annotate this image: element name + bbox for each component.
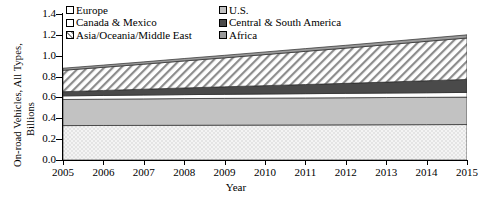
- legend-swatch-icon: [219, 31, 227, 39]
- y-axis-tick-label: 0.8: [30, 71, 56, 82]
- area-band-us: [63, 97, 467, 125]
- y-axis-title: On-road Vehicles, All Types, Billions: [0, 0, 34, 175]
- x-axis-tick: [144, 160, 145, 165]
- x-axis-tick: [184, 160, 185, 165]
- y-axis-title-line1: On-road Vehicles, All Types,: [12, 43, 23, 167]
- legend-label: Europe: [76, 4, 108, 16]
- y-axis-tick-label: 1.0: [30, 50, 56, 61]
- x-axis-tick-label: 2007: [124, 166, 164, 178]
- legend-column-2: U.S.Central & South AmericaAfrica: [219, 4, 341, 41]
- legend-swatch-icon: [66, 6, 74, 14]
- legend-column-1: EuropeCanada & MexicoAsia/Oceania/Middle…: [66, 4, 192, 41]
- legend-label: U.S.: [229, 4, 249, 16]
- y-axis-tick-label: 0.2: [30, 133, 56, 144]
- x-axis-tick: [346, 160, 347, 165]
- x-axis-tick-label: 2010: [245, 166, 285, 178]
- x-axis-title: Year: [0, 181, 472, 193]
- legend-item[interactable]: Europe: [66, 4, 192, 16]
- x-axis-tick: [63, 160, 64, 165]
- x-axis-tick: [386, 160, 387, 165]
- y-axis-tick-label: 1.4: [30, 8, 56, 19]
- y-axis-tick-label: 0.0: [30, 154, 56, 165]
- x-axis-tick-label: 2014: [407, 166, 447, 178]
- x-axis-tick: [305, 160, 306, 165]
- x-axis-tick-label: 2015: [447, 166, 483, 178]
- x-axis-tick: [225, 160, 226, 165]
- y-axis-tick-label: 1.2: [30, 29, 56, 40]
- legend-swatch-icon: [66, 31, 74, 39]
- y-axis-tick-label: 0.4: [30, 112, 56, 123]
- y-axis-tick: [56, 160, 62, 161]
- legend-swatch-icon: [219, 19, 227, 27]
- x-axis-tick-label: 2011: [285, 166, 325, 178]
- legend-label: Africa: [229, 29, 257, 41]
- x-axis-tick: [103, 160, 104, 165]
- x-axis-tick-label: 2012: [326, 166, 366, 178]
- legend-label: Central & South America: [229, 16, 341, 28]
- legend-label: Canada & Mexico: [76, 16, 157, 28]
- legend-swatch-icon: [219, 6, 227, 14]
- x-axis-tick: [467, 160, 468, 165]
- y-axis-tick: [56, 35, 62, 36]
- y-axis-tick: [56, 56, 62, 57]
- legend-item[interactable]: Africa: [219, 29, 341, 41]
- area-band-europe: [63, 125, 467, 160]
- legend-item[interactable]: U.S.: [219, 4, 341, 16]
- legend-swatch-icon: [66, 19, 74, 27]
- y-axis-tick: [56, 14, 62, 15]
- y-axis-tick: [56, 97, 62, 98]
- y-axis-tick: [56, 139, 62, 140]
- x-axis-tick-label: 2005: [43, 166, 83, 178]
- x-axis-tick-label: 2006: [83, 166, 123, 178]
- x-axis-tick-label: 2009: [205, 166, 245, 178]
- x-axis-tick-label: 2008: [164, 166, 204, 178]
- legend-item[interactable]: Asia/Oceania/Middle East: [66, 29, 192, 41]
- legend-item[interactable]: Canada & Mexico: [66, 16, 192, 28]
- legend-label: Asia/Oceania/Middle East: [76, 29, 192, 41]
- x-axis-tick: [427, 160, 428, 165]
- y-axis-tick: [56, 77, 62, 78]
- y-axis-tick: [56, 118, 62, 119]
- x-axis-tick-label: 2013: [366, 166, 406, 178]
- legend-item[interactable]: Central & South America: [219, 16, 341, 28]
- x-axis-tick: [265, 160, 266, 165]
- y-axis-tick-label: 0.6: [30, 91, 56, 102]
